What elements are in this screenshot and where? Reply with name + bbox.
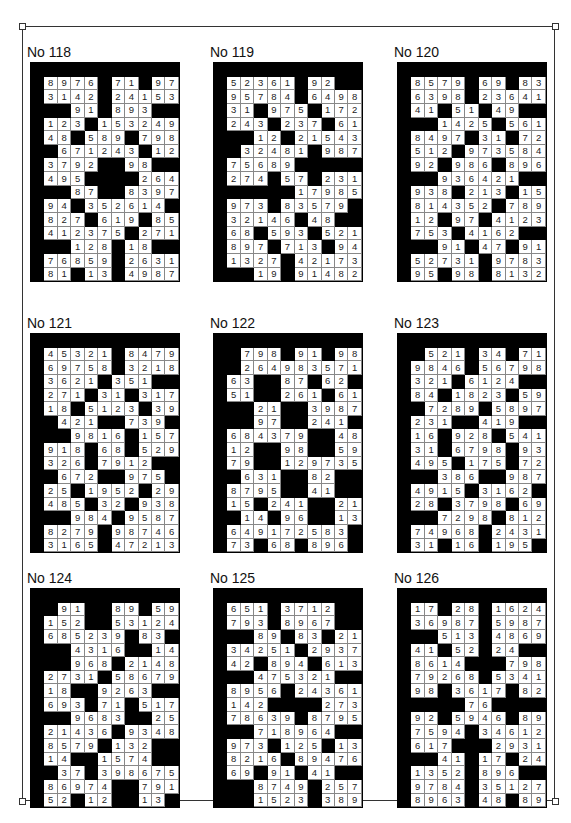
black-cell	[506, 389, 519, 403]
digit-cell: 8	[519, 616, 532, 630]
digit-cell: 9	[519, 240, 532, 254]
digit-cell: 4	[58, 416, 71, 430]
digit-cell: 2	[492, 644, 505, 658]
black-cell	[31, 240, 44, 254]
digit-cell: 6	[322, 657, 335, 671]
black-cell	[125, 172, 138, 186]
black-cell	[519, 227, 532, 241]
digit-cell: 4	[281, 498, 294, 512]
digit-cell: 8	[44, 525, 57, 539]
black-cell	[398, 145, 411, 159]
digit-cell: 4	[281, 90, 294, 104]
black-cell	[398, 753, 411, 767]
black-cell	[452, 145, 465, 159]
digit-cell: 5	[425, 268, 438, 282]
digit-cell: 1	[479, 753, 492, 767]
black-cell	[227, 131, 240, 145]
black-cell	[214, 118, 227, 132]
black-cell	[227, 671, 240, 685]
digit-cell: 9	[71, 511, 84, 525]
black-cell	[125, 794, 138, 808]
black-cell	[112, 589, 125, 603]
puzzle-title: No 126	[394, 570, 439, 586]
black-cell	[254, 766, 267, 780]
digit-cell: 9	[85, 739, 98, 753]
digit-cell: 1	[125, 240, 138, 254]
digit-cell: 9	[241, 457, 254, 471]
digit-cell: 8	[44, 780, 57, 794]
digit-cell: 7	[425, 402, 438, 416]
digit-cell: 2	[295, 739, 308, 753]
black-cell	[98, 603, 111, 617]
black-cell	[139, 145, 152, 159]
digit-cell: 7	[519, 348, 532, 362]
digit-cell: 3	[438, 227, 451, 241]
digit-cell: 6	[98, 213, 111, 227]
black-cell	[227, 361, 240, 375]
black-cell	[31, 63, 44, 77]
black-cell	[268, 186, 281, 200]
digit-cell: 2	[335, 498, 348, 512]
black-cell	[214, 199, 227, 213]
digit-cell: 1	[532, 429, 545, 443]
digit-cell: 4	[152, 199, 165, 213]
digit-cell: 6	[112, 644, 125, 658]
digit-cell: 9	[281, 443, 294, 457]
digit-cell: 8	[411, 199, 424, 213]
black-cell	[398, 739, 411, 753]
digit-cell: 4	[532, 753, 545, 767]
digit-cell: 9	[112, 525, 125, 539]
black-cell	[112, 361, 125, 375]
digit-cell: 8	[44, 739, 57, 753]
digit-cell: 7	[85, 186, 98, 200]
digit-cell: 7	[165, 77, 178, 91]
black-cell	[348, 158, 361, 172]
digit-cell: 1	[479, 375, 492, 389]
digit-cell: 5	[438, 766, 451, 780]
digit-cell: 7	[452, 131, 465, 145]
black-cell	[425, 589, 438, 603]
black-cell	[322, 158, 335, 172]
digit-cell: 1	[268, 402, 281, 416]
digit-cell: 4	[411, 484, 424, 498]
digit-cell: 1	[152, 539, 165, 553]
digit-cell: 6	[506, 766, 519, 780]
digit-cell: 8	[308, 539, 321, 553]
digit-cell: 1	[295, 145, 308, 159]
digit-cell: 7	[71, 525, 84, 539]
digit-cell: 9	[411, 268, 424, 282]
digit-cell: 3	[241, 539, 254, 553]
digit-cell: 5	[71, 630, 84, 644]
digit-cell: 3	[348, 698, 361, 712]
digit-cell: 1	[506, 172, 519, 186]
black-cell	[438, 603, 451, 617]
digit-cell: 9	[425, 671, 438, 685]
black-cell	[438, 334, 451, 348]
digit-cell: 3	[139, 684, 152, 698]
digit-cell: 1	[254, 794, 267, 808]
black-cell	[348, 199, 361, 213]
digit-cell: 7	[71, 739, 84, 753]
digit-cell: 1	[348, 389, 361, 403]
digit-cell: 9	[98, 254, 111, 268]
black-cell	[506, 334, 519, 348]
digit-cell: 1	[152, 361, 165, 375]
digit-cell: 5	[71, 172, 84, 186]
black-cell	[438, 104, 451, 118]
digit-cell: 2	[322, 470, 335, 484]
digit-cell: 6	[268, 77, 281, 91]
digit-cell: 5	[335, 780, 348, 794]
black-cell	[165, 416, 178, 430]
black-cell	[281, 348, 294, 362]
digit-cell: 1	[165, 780, 178, 794]
digit-cell: 9	[438, 172, 451, 186]
digit-cell: 9	[268, 104, 281, 118]
black-cell	[452, 186, 465, 200]
digit-cell: 9	[425, 794, 438, 808]
black-cell	[227, 145, 240, 159]
digit-cell: 1	[139, 794, 152, 808]
digit-cell: 2	[532, 131, 545, 145]
black-cell	[214, 589, 227, 603]
black-cell	[479, 63, 492, 77]
black-cell	[465, 240, 478, 254]
